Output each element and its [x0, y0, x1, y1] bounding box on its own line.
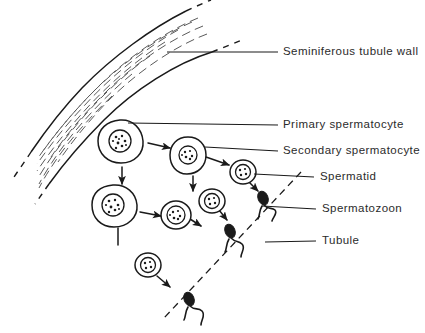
label-secondary-spermatocyte: Secondary spermatocyte	[283, 144, 420, 156]
label-seminiferous-tubule-wall: Seminiferous tubule wall	[283, 45, 418, 57]
sperm-tail	[264, 205, 276, 221]
label-spermatid: Spermatid	[320, 170, 376, 182]
arrow-spermatid2-to-spermatozoon2	[219, 210, 227, 220]
label-primary-spermatocyte: Primary spermatocyte	[283, 118, 404, 130]
secondary-spermatocyte-1	[170, 137, 206, 174]
leader-line-secondary	[205, 147, 278, 151]
arrow-secondary2-to-spermatid2	[190, 219, 201, 226]
primary-spermatocyte-2	[92, 185, 137, 227]
cell-nucleus	[236, 165, 251, 180]
spermatozoon-1	[256, 190, 276, 221]
spermatozoon-2	[223, 223, 244, 257]
primary-spermatocyte-1	[98, 120, 143, 163]
arrow-spermatid3-to-spermatozoon3	[157, 276, 170, 287]
spermatozoon-3	[182, 291, 204, 325]
sperm-tail-branch	[184, 307, 188, 320]
spermatid-3	[135, 253, 161, 277]
wall-inner-edge-dashed-bottom	[35, 184, 49, 204]
sperm-head	[223, 223, 238, 240]
sperm-head	[256, 190, 271, 207]
sperm-tail-branch	[258, 206, 262, 219]
spermatid-1	[230, 160, 256, 184]
leader-line-tubule	[265, 241, 316, 242]
leader-line-spermatid	[254, 174, 314, 177]
arrow-primary2-to-secondary2	[140, 212, 161, 216]
wall-outer-edge-dashed-top	[186, 0, 211, 11]
leader-line-primary	[128, 123, 278, 125]
arrow-spermatid1-to-spermatozoon1	[249, 182, 258, 191]
wall-inner-edge-dashed-top	[212, 40, 242, 52]
sperm-head	[182, 291, 197, 308]
seminiferous-tubule-wall-graphic	[14, 0, 242, 204]
arrow-secondary1-to-spermatid1	[206, 157, 229, 165]
label-spermatozoon: Spermatozoon	[322, 202, 402, 214]
secondary-spermatocyte-2	[161, 201, 191, 229]
arrow-primary1-to-secondary1	[148, 143, 170, 148]
sperm-tail-branch	[225, 239, 229, 252]
spermatid-2	[199, 189, 225, 213]
sperm-tail	[231, 238, 244, 257]
cell-nucleus	[141, 258, 156, 273]
cell-nucleus	[205, 194, 220, 209]
wall-outer-edge-dashed-bottom	[14, 152, 31, 177]
spermatogenesis-diagram: Seminiferous tubule wall Primary spermat…	[0, 0, 425, 333]
labels: Seminiferous tubule wall Primary spermat…	[283, 45, 420, 246]
sperm-tail	[190, 306, 204, 325]
label-tubule: Tubule	[322, 234, 359, 246]
